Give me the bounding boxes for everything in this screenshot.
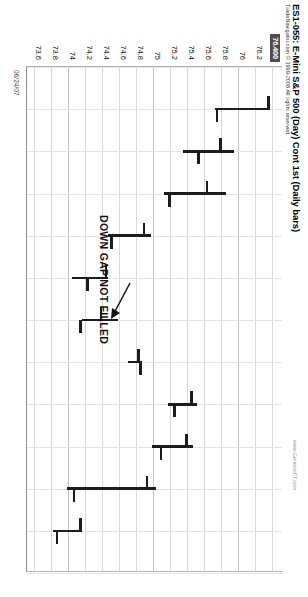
time-gridline [27, 151, 282, 152]
chart-canvas: ES1-055: E-Mini S&P 500 (Day) Cont 1st (… [0, 0, 308, 597]
price-gridline [204, 67, 205, 571]
ohlc-close-tick [56, 531, 58, 544]
ohlc-close-tick [139, 362, 141, 375]
ohlc-range-line [67, 487, 156, 489]
ohlc-open-tick [267, 96, 269, 109]
price-tick-75-8: 75.8 [221, 45, 229, 60]
chart-title: ES1-055: E-Mini S&P 500 (Day) Cont 1st (… [291, 4, 302, 232]
price-gridline [51, 67, 52, 571]
x-axis-date-label: 06/24/07 [13, 70, 20, 96]
price-gridline [68, 67, 69, 571]
ohlc-close-tick [73, 489, 75, 502]
price-gridline [136, 67, 137, 571]
price-tick-73-6: 73.6 [34, 45, 42, 60]
price-axis: 76.400 76.2 76 75.8 75.6 75.4 75.2 75 74… [26, 0, 282, 64]
price-gridline [255, 67, 256, 571]
price-tick-74-2: 74.2 [85, 45, 93, 60]
plot-area: DOWN GAP NOT FILLED [26, 66, 282, 572]
ohlc-open-tick [185, 434, 187, 447]
time-gridline [27, 404, 282, 405]
price-tick-74: 74 [68, 52, 76, 60]
chart-subtitle: TradeNavigator.com © 1999-2008 All right… [285, 4, 291, 134]
ohlc-close-tick [86, 278, 88, 291]
ohlc-close-tick [160, 447, 162, 460]
price-gridline [187, 67, 188, 571]
ohlc-open-tick [143, 223, 145, 236]
price-tick-75-6: 75.6 [204, 45, 212, 60]
price-gridline [272, 67, 273, 571]
time-gridline [27, 67, 282, 68]
price-tick-74-6: 74.6 [119, 45, 127, 60]
price-tick-74-8: 74.8 [136, 45, 144, 60]
price-tick-76-2: 76.2 [255, 45, 263, 60]
ohlc-close-tick [168, 194, 170, 207]
ohlc-open-tick [219, 138, 221, 151]
price-tick-73-8: 73.8 [51, 45, 59, 60]
price-gridline [238, 67, 239, 571]
price-tick-75-2: 75.2 [170, 45, 178, 60]
time-gridline [27, 320, 282, 321]
price-tick-76-400: 76.400 [270, 34, 280, 62]
ohlc-close-tick [197, 151, 199, 164]
ohlc-close-tick [79, 320, 81, 333]
ohlc-range-line [215, 108, 270, 110]
ohlc-open-tick [137, 349, 139, 362]
ohlc-range-line [183, 150, 234, 152]
ohlc-range-line [164, 192, 225, 194]
price-tick-74-4: 74.4 [102, 45, 110, 60]
ohlc-close-tick [110, 236, 112, 249]
watermark-text: www.GenesisFT.com [292, 440, 298, 490]
ohlc-close-tick [173, 404, 175, 417]
annotation-arrow-icon [104, 281, 134, 327]
rotated-chart-wrapper: ES1-055: E-Mini S&P 500 (Day) Cont 1st (… [0, 0, 308, 597]
price-tick-76: 76 [238, 52, 246, 60]
time-gridline [27, 194, 282, 195]
price-gridline [170, 67, 171, 571]
price-gridline [153, 67, 154, 571]
price-gridline [34, 67, 35, 571]
ohlc-open-tick [190, 391, 192, 404]
price-tick-75: 75 [153, 52, 161, 60]
time-gridline [27, 278, 282, 279]
time-gridline [27, 236, 282, 237]
time-gridline [27, 573, 282, 574]
ohlc-open-tick [79, 518, 81, 531]
time-gridline [27, 362, 282, 363]
ohlc-open-tick [146, 476, 148, 489]
price-tick-75-4: 75.4 [187, 45, 195, 60]
ohlc-close-tick [216, 109, 218, 122]
ohlc-open-tick [206, 181, 208, 194]
